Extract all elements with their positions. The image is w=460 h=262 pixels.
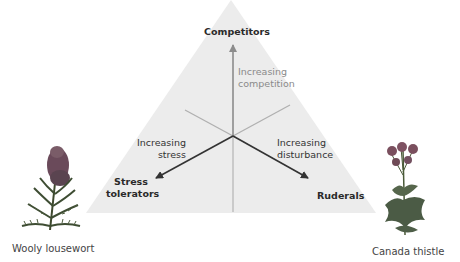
stress-tolerators-label-line1: Stress [106, 176, 156, 188]
wooly-lousewort-caption: Wooly lousewort [12, 243, 94, 255]
disturbance-axis-label-line2: disturbance [277, 149, 333, 161]
diagram-canvas [0, 0, 460, 262]
stress-axis-label-line1: Increasing [136, 137, 186, 149]
wooly-lousewort-plant-icon [22, 146, 80, 230]
csr-triangle-diagram: Competitors Increasing competition Incre… [0, 0, 460, 262]
competition-axis-label-line2: competition [238, 78, 295, 90]
disturbance-axis-label-line1: Increasing [277, 137, 333, 149]
stress-tolerators-label-line2: tolerators [106, 188, 156, 200]
stress-axis-label: Increasing stress [136, 137, 186, 161]
ruderals-label: Ruderals [317, 190, 364, 202]
competition-axis-label-line1: Increasing [238, 66, 295, 78]
disturbance-axis-label: Increasing disturbance [277, 137, 333, 161]
competition-axis-label: Increasing competition [238, 66, 295, 90]
canada-thistle-caption: Canada thistle [372, 246, 444, 258]
stress-axis-label-line2: stress [136, 149, 186, 161]
stress-tolerators-label: Stress tolerators [106, 176, 156, 200]
canada-thistle-plant-icon [385, 142, 425, 235]
competitors-label: Competitors [204, 26, 270, 38]
